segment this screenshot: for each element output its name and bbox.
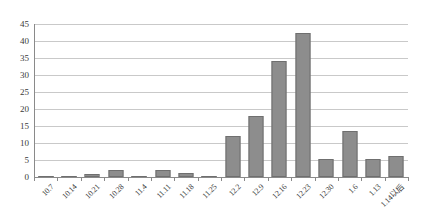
x-tick: [57, 177, 58, 181]
bar[interactable]: [389, 156, 404, 177]
bar-slot: [361, 24, 384, 177]
x-tick: [361, 177, 362, 181]
bar-slot: [198, 24, 221, 177]
x-tick-label: 12.2: [227, 183, 242, 198]
x-tick-label: 12.30: [318, 183, 336, 201]
x-tick-label: 10.14: [61, 183, 79, 201]
bar[interactable]: [295, 33, 310, 178]
x-tick: [244, 177, 245, 181]
y-tick-label-35: 35: [20, 54, 29, 63]
bar-slot: [338, 24, 361, 177]
x-tick: [385, 177, 386, 181]
y-tick-label-30: 30: [20, 71, 29, 80]
x-tick: [174, 177, 175, 181]
bar-slot: [151, 24, 174, 177]
x-tick-label: 1.14以后: [380, 183, 406, 209]
bar-slot: [385, 24, 408, 177]
bar-slot: [57, 24, 80, 177]
y-tick-label-0: 0: [25, 173, 30, 182]
bar-slot: [244, 24, 267, 177]
bar-slot: [221, 24, 244, 177]
bar-chart: 051015202530354045 10.710.1410.2110.2811…: [0, 0, 421, 220]
x-tick-label: 1.13: [368, 183, 383, 198]
x-tick-label: 12.16: [271, 183, 289, 201]
bar[interactable]: [272, 61, 287, 177]
x-tick-label: 10.21: [84, 183, 102, 201]
bar-slot: [104, 24, 127, 177]
x-tick: [34, 177, 35, 181]
x-tick: [338, 177, 339, 181]
x-tick: [81, 177, 82, 181]
x-tick-label: 12.23: [295, 183, 313, 201]
y-tick-label-10: 10: [20, 139, 29, 148]
x-tick-label: 1.6: [347, 183, 359, 195]
bar[interactable]: [342, 131, 357, 177]
bar-slot: [291, 24, 314, 177]
y-tick-label-20: 20: [20, 105, 29, 114]
y-tick-label-25: 25: [20, 88, 29, 97]
x-tick: [151, 177, 152, 181]
x-tick: [291, 177, 292, 181]
y-tick-label-45: 45: [20, 20, 29, 29]
x-tick: [104, 177, 105, 181]
x-tick-label: 10.7: [40, 183, 55, 198]
bar[interactable]: [155, 170, 170, 177]
x-tick-label: 11.25: [201, 183, 218, 200]
x-tick-label: 10.28: [108, 183, 126, 201]
bar[interactable]: [108, 170, 123, 177]
y-axis-tick-labels: 051015202530354045: [0, 24, 29, 177]
bar[interactable]: [319, 159, 334, 177]
bar[interactable]: [225, 136, 240, 177]
bar-slot: [128, 24, 151, 177]
bar-slot: [81, 24, 104, 177]
x-tick: [198, 177, 199, 181]
x-tick-label: 11.11: [155, 183, 172, 200]
x-tick: [408, 177, 409, 181]
bar-slot: [315, 24, 338, 177]
bar-slot: [268, 24, 291, 177]
bar[interactable]: [249, 116, 264, 177]
x-tick-label: 12.9: [251, 183, 266, 198]
bar-slot: [34, 24, 57, 177]
y-tick-label-15: 15: [20, 122, 29, 131]
x-tick: [128, 177, 129, 181]
y-tick-label-5: 5: [25, 156, 30, 165]
x-tick-label: 11.4: [134, 183, 149, 198]
y-tick-label-40: 40: [20, 37, 29, 46]
bar-slot: [174, 24, 197, 177]
x-tick: [315, 177, 316, 181]
x-tick-label: 11.18: [178, 183, 195, 200]
x-tick: [221, 177, 222, 181]
bar[interactable]: [365, 159, 380, 177]
bars-layer: [34, 24, 408, 177]
x-tick: [268, 177, 269, 181]
